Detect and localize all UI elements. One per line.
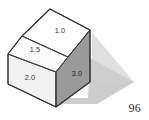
figure-illustration: 1.0 1.5 2.0 3.0: [0, 0, 149, 120]
label-right-side: 3.0: [72, 69, 83, 78]
label-middle-step: 1.5: [30, 45, 41, 54]
drop-shadow-secondary: [90, 30, 134, 82]
label-lower-left: 2.0: [25, 73, 36, 82]
page-number: 96: [128, 102, 141, 114]
label-top-slope: 1.0: [55, 26, 66, 35]
